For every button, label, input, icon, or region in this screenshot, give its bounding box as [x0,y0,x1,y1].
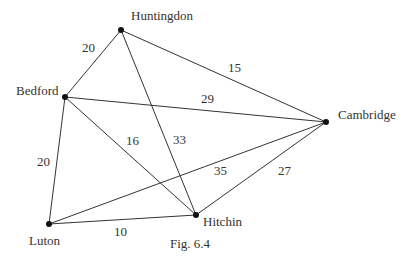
edge-huntingdon-cambridge [121,30,326,122]
node-label-luton: Luton [29,233,61,248]
node-label-hitchin: Hitchin [203,214,242,229]
edge-weight-huntingdon-cambridge: 15 [228,60,241,75]
node-hitchin [193,212,199,218]
nodes-layer [46,27,329,227]
edge-weight-luton-hitchin: 10 [114,224,127,239]
figure-caption: Fig. 6.4 [170,236,211,251]
edge-weight-bedford-cambridge: 29 [201,91,214,106]
edges-layer [49,30,326,224]
edge-weights-layer: 201533291620351027 [37,40,292,239]
node-cambridge [323,119,329,125]
edge-bedford-cambridge [65,97,326,122]
node-label-cambridge: Cambridge [338,107,396,122]
node-label-huntingdon: Huntingdon [131,8,194,23]
weighted-graph-diagram: 201533291620351027 HuntingdonBedfordCamb… [0,0,407,269]
edge-weight-bedford-hitchin: 16 [126,133,140,148]
edge-weight-hitchin-cambridge: 27 [278,163,292,178]
edge-weight-huntingdon-bedford: 20 [82,40,95,55]
edge-weight-luton-cambridge: 35 [214,163,227,178]
edge-bedford-luton [49,97,65,224]
node-labels-layer: HuntingdonBedfordCambridgeLutonHitchin [16,8,396,248]
edge-huntingdon-hitchin [121,30,196,215]
node-label-bedford: Bedford [16,83,59,98]
edge-bedford-hitchin [65,97,196,215]
node-luton [46,221,52,227]
node-huntingdon [118,27,124,33]
node-bedford [62,94,68,100]
edge-weight-bedford-luton: 20 [37,154,50,169]
edge-weight-huntingdon-hitchin: 33 [173,132,186,147]
